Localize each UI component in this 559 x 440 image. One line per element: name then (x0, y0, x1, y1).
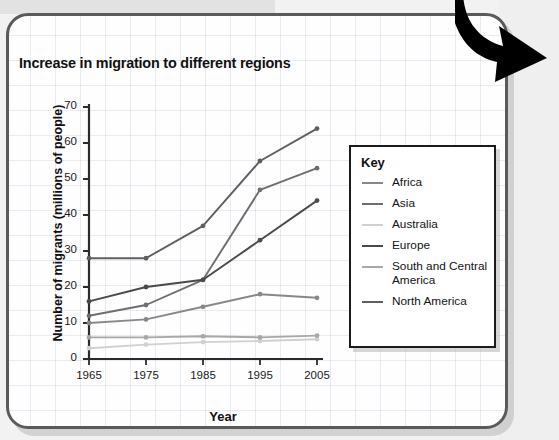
chart-legend: Key AfricaAsiaAustraliaEuropeSouth and C… (349, 145, 496, 348)
legend-item-africa[interactable]: Africa (361, 175, 494, 189)
legend-label: Africa (392, 175, 422, 189)
data-point (144, 342, 149, 347)
data-point (87, 299, 92, 304)
legend-swatch (362, 203, 383, 205)
legend-label: Europe (392, 238, 430, 252)
data-point (87, 335, 92, 340)
data-point (144, 256, 149, 261)
legend-item-asia[interactable]: Asia (361, 196, 494, 210)
data-point (144, 303, 149, 308)
y-tick-20: 20 (51, 279, 77, 291)
legend-item-south-and-central-america[interactable]: South and Central America (361, 259, 494, 287)
legend-swatch (362, 182, 383, 184)
y-tick-60: 60 (51, 135, 77, 147)
chart-axes (83, 104, 323, 365)
chart-series (87, 126, 320, 350)
legend-item-north-america[interactable]: North America (361, 294, 494, 308)
data-point (258, 292, 263, 297)
legend-swatch (362, 266, 383, 268)
series-line-north-america (89, 129, 317, 259)
legend-title: Key (361, 155, 494, 170)
data-point (144, 317, 149, 322)
legend-swatch (362, 301, 383, 303)
legend-item-europe[interactable]: Europe (361, 238, 494, 252)
x-tick-1995: 1995 (238, 369, 282, 381)
chart-card: Increase in migration to different regio… (6, 13, 508, 429)
backdrop-top-strip (0, 0, 275, 14)
legend-item-australia[interactable]: Australia (361, 217, 494, 231)
y-tick-50: 50 (51, 171, 77, 183)
data-point (87, 313, 92, 318)
data-point (144, 285, 149, 290)
data-point (144, 335, 149, 340)
x-tick-2005: 2005 (295, 369, 339, 381)
x-tick-1965: 1965 (67, 369, 111, 381)
y-tick-30: 30 (51, 243, 77, 255)
series-line-europe (89, 201, 317, 302)
data-point (87, 321, 92, 326)
x-tick-1985: 1985 (181, 369, 225, 381)
legend-items: AfricaAsiaAustraliaEuropeSouth and Centr… (361, 175, 494, 308)
data-point (201, 277, 206, 282)
data-point (315, 126, 320, 131)
data-point (315, 198, 320, 203)
data-point (315, 333, 320, 338)
data-point (315, 295, 320, 300)
legend-swatch (362, 224, 383, 226)
data-point (315, 166, 320, 171)
y-tick-40: 40 (51, 207, 77, 219)
data-point (87, 346, 92, 351)
data-point (258, 187, 263, 192)
data-point (258, 335, 263, 340)
legend-label: South and Central America (392, 259, 494, 287)
x-tick-1975: 1975 (124, 369, 168, 381)
data-point (201, 334, 206, 339)
y-tick-70: 70 (51, 99, 77, 111)
legend-label: North America (392, 294, 467, 308)
data-point (201, 223, 206, 228)
data-point (201, 304, 206, 309)
y-tick-10: 10 (51, 315, 77, 327)
data-point (258, 159, 263, 164)
data-point (201, 340, 206, 345)
y-tick-0: 0 (51, 351, 77, 363)
legend-swatch (362, 245, 383, 247)
backdrop-right-strip (499, 0, 559, 440)
data-point (87, 256, 92, 261)
legend-label: Australia (392, 217, 438, 231)
legend-label: Asia (392, 196, 415, 210)
data-point (258, 238, 263, 243)
